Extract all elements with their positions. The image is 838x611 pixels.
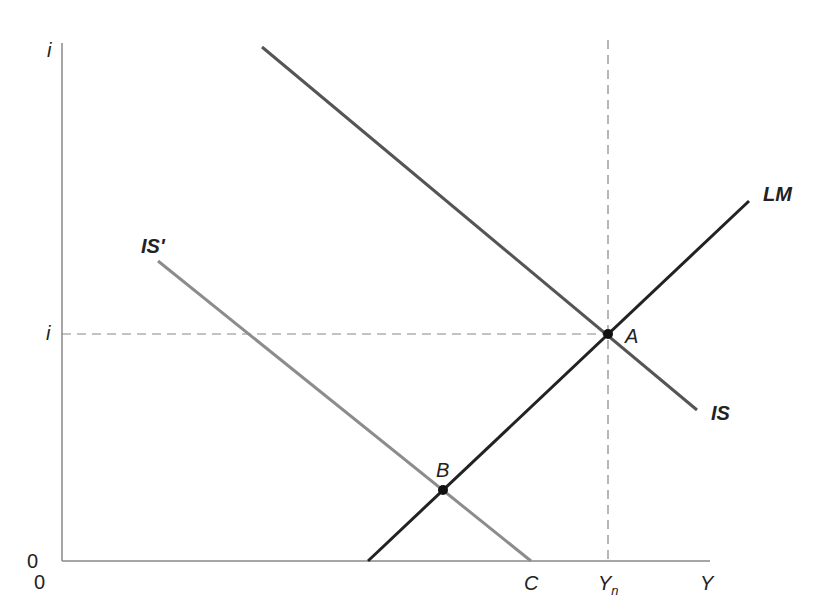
- chart-canvas: [0, 0, 838, 611]
- x-axis-label: Y: [700, 573, 713, 593]
- y-tick-i: i: [46, 323, 50, 343]
- x-tick-yn: Yn: [598, 573, 619, 597]
- point-b-marker: [438, 485, 448, 495]
- x-zero-label: 0: [34, 572, 45, 592]
- point-a-label: A: [625, 326, 638, 346]
- y-zero-label: 0: [27, 551, 38, 571]
- is-curve: [262, 47, 697, 410]
- lm-label: LM: [763, 184, 792, 204]
- point-a-marker: [603, 329, 613, 339]
- is-label: IS: [711, 403, 730, 423]
- is-prime-label: IS': [141, 236, 165, 256]
- y-axis-label: i: [47, 40, 51, 60]
- is-prime-curve: [158, 261, 531, 561]
- point-b-label: B: [436, 460, 449, 480]
- lm-curve: [368, 201, 749, 561]
- x-tick-c: C: [524, 573, 538, 593]
